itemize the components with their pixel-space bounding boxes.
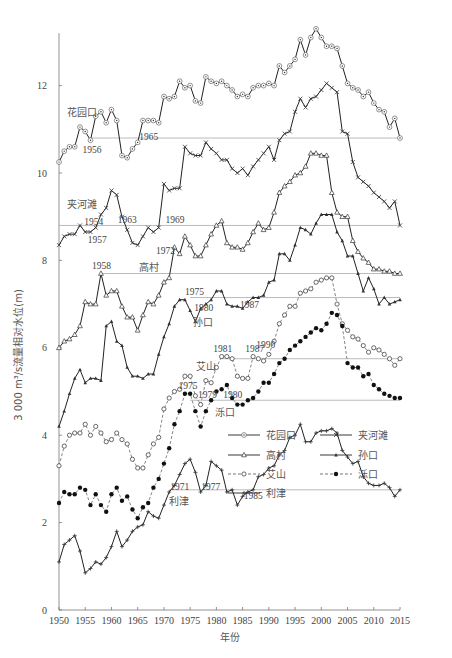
y-tick-label: 10 [37,168,47,179]
legend-label: 夹河滩 [358,429,388,441]
annotation-label: 夹河滩 [67,198,97,210]
annotation-label: 1981 [213,344,232,354]
x-tick-label: 2015 [390,615,410,626]
reference-lines [59,138,400,490]
y-tick-label: 4 [42,430,47,441]
annotation-label: 1969 [165,215,184,225]
annotation-label: 1975 [179,381,198,391]
annotation-label: 1977 [201,482,220,492]
x-tick-label: 1980 [206,615,226,626]
annotation-label: 1958 [92,261,111,271]
x-tick-label: 1975 [180,615,200,626]
y-tick-label: 6 [42,342,47,353]
y-tick-label: 0 [42,605,47,616]
annotation-label: 1963 [118,215,137,225]
y-tick-label: 8 [42,255,47,266]
x-tick-label: 1960 [101,615,121,626]
series-利津 [57,422,402,575]
legend-label: 高村 [266,449,286,461]
legend-label: 孙口 [358,449,378,461]
x-tick-label: 1965 [128,615,148,626]
x-tick-label: 1970 [154,615,174,626]
x-tick-label: 1985 [233,615,253,626]
annotation-label: 1980 [223,390,242,400]
y-axis-label: 3 000 m³/s流量相对水位(m) [12,289,24,421]
annotation-label: 泺口 [215,407,235,418]
legend-label: 花园口 [266,429,296,441]
annotation-label: 1975 [185,287,204,297]
legend-label: 利津 [266,488,286,499]
annotation-label: 1971 [170,482,189,492]
legend-item: 高村 [228,449,286,461]
legend-item: 艾山 [228,469,286,480]
annotation-label: 1987 [240,300,259,310]
x-tick-label: 2005 [338,615,358,626]
annotation-label: 高村 [139,261,159,273]
annotation-label: 孙口 [193,316,213,328]
series-line [59,424,400,573]
legend-label: 艾山 [266,469,286,480]
annotation-label: 1972 [156,246,175,256]
annotation-label: 花园口 [67,106,97,118]
legend-label: 泺口 [358,469,378,480]
x-tick-label: 1950 [49,615,69,626]
x-tick-label: 1990 [259,615,279,626]
series-高村 [57,151,403,350]
annotation-label: 1979 [198,390,217,400]
y-tick-label: 2 [42,517,47,528]
legend-item: 夹河滩 [320,429,388,441]
line-chart: 1950195519601965197019751980198519901995… [0,0,452,658]
series-line [59,153,400,347]
annotation-label: 1965 [139,132,158,142]
x-tick-label: 2010 [364,615,384,626]
annotation-label: 1987 [245,344,264,354]
series-夹河滩 [57,81,402,247]
axes: 1950195519601965197019751980198519901995… [37,33,410,626]
x-axis-label: 年份 [220,631,240,643]
annotation-label: 1985 [244,491,263,501]
annotation-label: 艾山 [196,361,216,372]
series-花园口 [57,26,403,164]
legend-item: 花园口 [228,429,296,441]
annotation-label: 1980 [194,303,213,313]
annotation-label: 1954 [84,217,103,227]
annotation-label: 1957 [88,235,107,245]
legend-item: 泺口 [320,469,378,480]
x-tick-label: 2000 [311,615,331,626]
annotation-label: 利津 [169,496,189,507]
annotations: 花园口19561965夹河滩195419571963196919721958高村… [67,106,276,507]
annotation-label: 1956 [83,145,102,155]
x-tick-label: 1995 [285,615,305,626]
x-tick-label: 1955 [75,615,95,626]
y-tick-label: 12 [37,80,47,91]
legend: 花园口夹河滩高村孙口艾山泺口利津 [228,429,388,499]
